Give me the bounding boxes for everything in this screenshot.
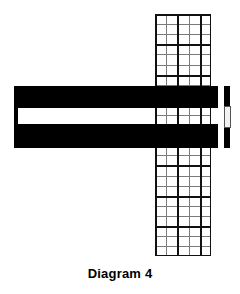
left-connector-bar bbox=[14, 86, 18, 148]
post-insert bbox=[224, 106, 231, 128]
diagram-figure: Diagram 4 bbox=[0, 0, 240, 294]
figure-caption: Diagram 4 bbox=[0, 266, 240, 281]
lower-horizontal-bar bbox=[14, 124, 218, 148]
upper-horizontal-bar bbox=[14, 86, 218, 108]
